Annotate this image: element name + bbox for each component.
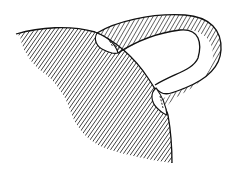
handle-attachment-diagram	[0, 0, 235, 175]
hatched-sheet	[16, 28, 172, 163]
